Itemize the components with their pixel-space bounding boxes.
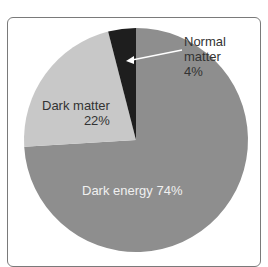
label-dark-matter-line1: Dark matter <box>42 98 110 113</box>
label-dark-matter-pct: 22% <box>42 113 110 128</box>
label-normal-pct: 4% <box>184 64 226 79</box>
label-dark-energy: Dark energy 74% <box>82 183 182 198</box>
label-dark-matter: Dark matter 22% <box>42 98 110 128</box>
label-normal-line2: matter <box>184 49 226 64</box>
label-normal-matter: Normal matter 4% <box>184 34 226 79</box>
label-normal-line1: Normal <box>184 34 226 49</box>
